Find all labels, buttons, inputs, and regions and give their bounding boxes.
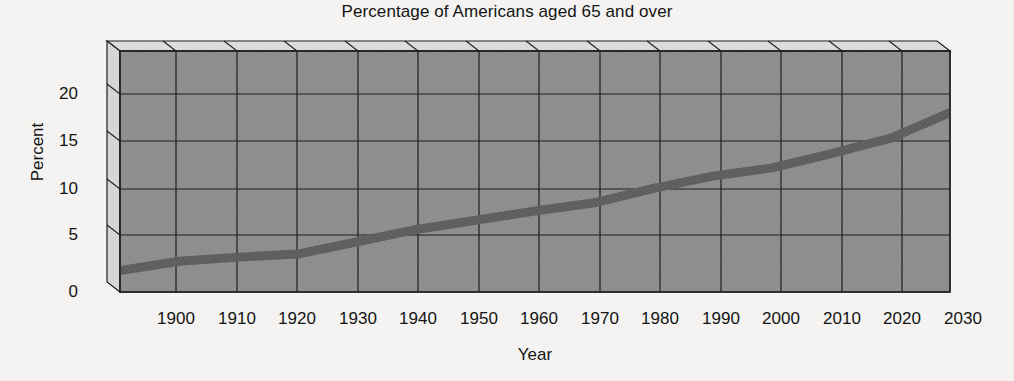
y-tick-label-20: 20 (18, 85, 78, 102)
x-tick-label-1930: 1930 (327, 310, 389, 327)
x-tick-label-1970: 1970 (569, 310, 631, 327)
x-tick-label-1910: 1910 (206, 310, 268, 327)
x-tick-label-1960: 1960 (508, 310, 570, 327)
x-tick-label-2030: 2030 (932, 310, 994, 327)
x-tick-label-2000: 2000 (750, 310, 812, 327)
y-tick-label-0: 0 (18, 283, 78, 300)
y-tick-label-15: 15 (18, 132, 78, 149)
y-tick-label-5: 5 (18, 226, 78, 243)
x-tick-label-2010: 2010 (811, 310, 873, 327)
x-tick-label-1990: 1990 (690, 310, 752, 327)
x-tick-label-1950: 1950 (448, 310, 510, 327)
y-tick-label-10: 10 (18, 180, 78, 197)
x-tick-label-1940: 1940 (387, 310, 449, 327)
wall-left-face (107, 41, 120, 292)
chart-figure: Percentage of Americans aged 65 and over… (0, 0, 1014, 381)
x-tick-label-2020: 2020 (871, 310, 933, 327)
x-tick-label-1980: 1980 (629, 310, 691, 327)
x-tick-label-1920: 1920 (266, 310, 328, 327)
x-tick-label-1900: 1900 (145, 310, 207, 327)
